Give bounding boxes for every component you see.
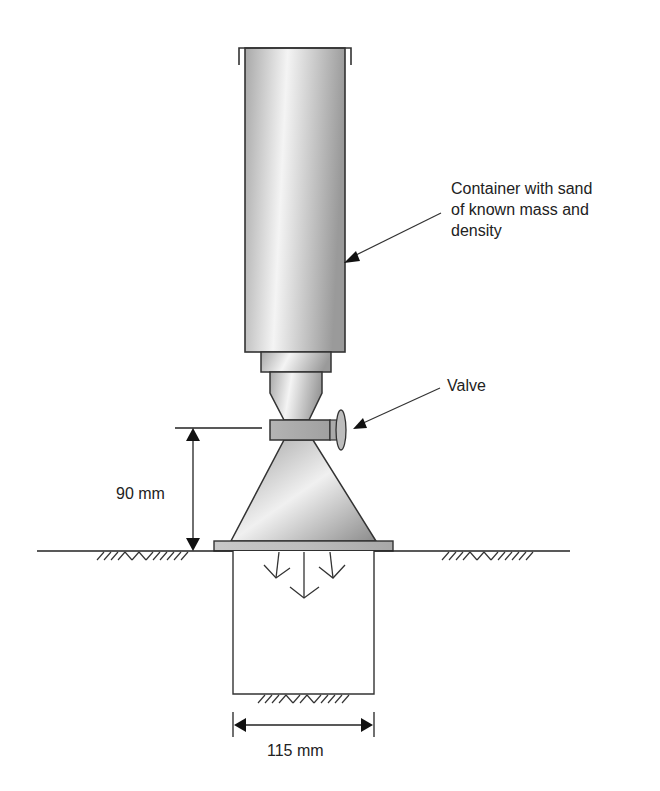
container-leader-arrow	[344, 213, 441, 263]
height-dimension-label: 90 mm	[116, 483, 165, 504]
valve-label: Valve	[447, 375, 486, 396]
ground-hatch-right	[442, 552, 533, 560]
cone	[231, 440, 376, 541]
ground-hatch-left	[97, 552, 188, 560]
width-dimension-label: 115 mm	[267, 740, 324, 761]
container-label-line-1: Container with sand	[451, 178, 592, 199]
valve-body	[270, 420, 330, 440]
sand-container	[239, 48, 351, 352]
container-label-line-3: density	[451, 220, 592, 241]
container-label-line-2: of known mass and	[451, 199, 592, 220]
upper-funnel	[270, 372, 322, 420]
valve-leader-arrow	[353, 388, 440, 429]
hole-hatch	[258, 695, 349, 703]
sand-replacement-diagram	[0, 0, 660, 791]
collar	[261, 352, 331, 372]
container-label: Container with sand of known mass and de…	[451, 178, 592, 241]
base-plate	[214, 541, 393, 551]
valve-handle	[336, 410, 346, 450]
width-dimension	[233, 712, 374, 737]
